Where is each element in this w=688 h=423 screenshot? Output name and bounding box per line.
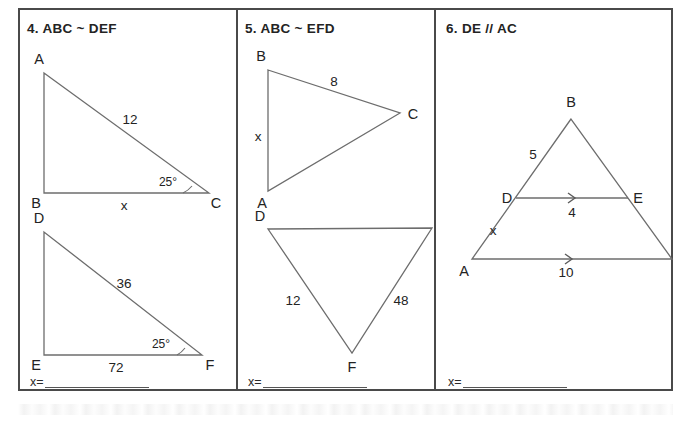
panel-problem-6: 6. DE // AC B A C D E 5 4 [434, 10, 675, 389]
side-label-ab-x: x [255, 129, 262, 144]
triangle-def-shape [268, 228, 432, 353]
vertex-label-c: C [211, 195, 221, 211]
side-label-de-4: 4 [568, 205, 576, 220]
panel-problem-5: 5. ABC ~ EFD B C A 8 x D E F 12 48 [236, 10, 434, 389]
side-label-ac-12: 12 [122, 112, 137, 127]
vertex-label-b: B [566, 94, 576, 110]
side-label-ef-72: 72 [108, 360, 123, 375]
side-label-ac-10: 10 [558, 265, 573, 280]
problem-5-title: 5. ABC ~ EFD [245, 21, 335, 36]
answer-blank-6[interactable]: x= [448, 375, 567, 389]
side-label-df-36: 36 [116, 276, 131, 291]
side-label-bc-x: x [121, 198, 128, 213]
problem-6-title: 6. DE // AC [446, 21, 517, 36]
vertex-label-f: F [206, 357, 215, 373]
triangle-def-shape [44, 232, 202, 355]
vertex-label-e: E [31, 357, 41, 373]
problem-6-figures: B A C D E 5 4 x 10 [434, 35, 675, 390]
vertex-label-d: D [34, 210, 44, 226]
vertex-label-d: D [255, 208, 265, 224]
side-label-bc-8: 8 [330, 74, 338, 89]
vertex-label-a: A [459, 263, 469, 279]
side-label-ad-x: x [490, 223, 497, 238]
vertex-label-d: D [502, 190, 512, 206]
vertex-label-f: F [348, 359, 357, 375]
problem-5-figures: B C A 8 x D E F 12 48 [236, 35, 434, 390]
answer-rule-4[interactable] [45, 387, 149, 388]
vertex-label-a: A [34, 51, 44, 67]
problem-4-title: 4. ABC ~ DEF [27, 21, 117, 36]
panel-problem-4: 4. ABC ~ DEF A B C 12 x 25° D [20, 10, 236, 389]
vertex-label-b: B [31, 195, 41, 211]
triangle-abc-shape [44, 73, 209, 193]
vertex-label-b: B [256, 48, 266, 64]
vertex-label-e: E [633, 190, 643, 206]
answer-prefix-6: x= [448, 375, 462, 389]
worksheet-page: 4. ABC ~ DEF A B C 12 x 25° D [0, 0, 688, 423]
problem-4-figures: A B C 12 x 25° D E F 36 72 25° [20, 35, 234, 390]
answer-rule-6[interactable] [463, 387, 567, 388]
angle-label-c-25: 25° [159, 175, 177, 189]
answer-rule-5[interactable] [263, 387, 367, 388]
answer-prefix-4: x= [30, 375, 44, 389]
worksheet-table: 4. ABC ~ DEF A B C 12 x 25° D [18, 8, 673, 391]
answer-prefix-5: x= [248, 375, 262, 389]
side-label-df-12: 12 [285, 293, 300, 308]
answer-blank-4[interactable]: x= [30, 375, 149, 389]
page-bottom-artifact [18, 404, 673, 415]
answer-blank-5[interactable]: x= [248, 375, 367, 389]
vertex-label-c: C [408, 106, 418, 122]
triangle-abc-shape [472, 119, 672, 259]
side-label-bd-5: 5 [529, 147, 537, 162]
angle-label-f-25: 25° [152, 337, 170, 351]
side-label-ef-48: 48 [393, 293, 408, 308]
